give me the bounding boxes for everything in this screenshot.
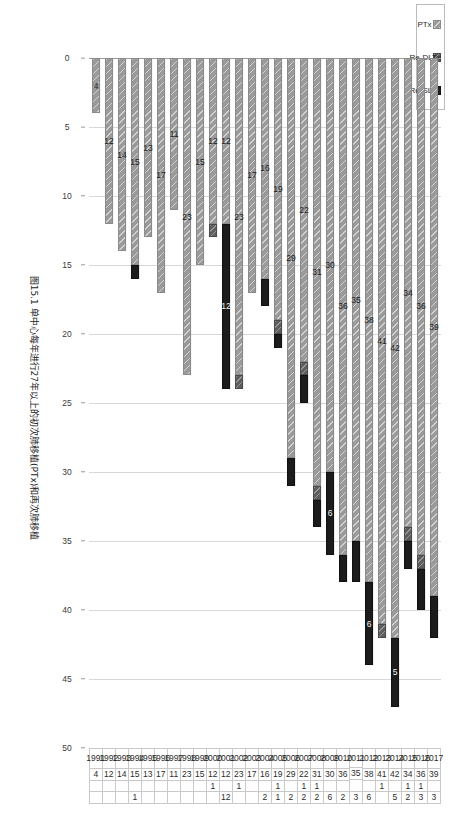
bar-value-label: 23 (234, 212, 243, 221)
table-cell-ptx: 15 (129, 768, 141, 780)
table-cell-text: 2 (315, 793, 320, 802)
table-cell-sltx: 2 (285, 791, 297, 804)
table-cell-text: 12 (104, 770, 113, 779)
bar-row: 425 (389, 58, 402, 748)
bar-row: 23 (233, 58, 246, 748)
table-row: 2012386 (363, 748, 376, 804)
bar-segment-ptx: 12 (222, 58, 230, 224)
figure-container: PTxRe-DLTxRe-SLTx 3936344254138635363063… (0, 0, 459, 816)
table-cell-text: 14 (117, 770, 126, 779)
bar-value-label: 17 (247, 171, 256, 180)
table-cell-ptx: 36 (337, 768, 349, 780)
table-cell-dltx: 1 (272, 780, 284, 792)
bar-stack: 11 (170, 58, 178, 210)
bar-value-label: 42 (391, 344, 400, 353)
table-cell-text: 1 (406, 782, 411, 791)
bar-value-label: 38 (365, 316, 374, 325)
table-cell-text: 17 (156, 770, 165, 779)
table-cell-text: 38 (364, 770, 373, 779)
bar-row: 14 (115, 58, 128, 748)
bar-row: 22 (298, 58, 311, 748)
table-cell-sltx: 12 (220, 791, 232, 804)
table-cell-dltx (285, 780, 297, 792)
bar-segment-dltx (378, 624, 386, 638)
table-cell-sltx (181, 791, 193, 804)
bar-value-label: 15 (195, 157, 204, 166)
table-cell-text: 2 (406, 793, 411, 802)
table-cell-sltx: 2 (337, 791, 349, 804)
table-cell-text: 15 (130, 770, 139, 779)
table-cell-text: 29 (286, 770, 295, 779)
bar-value-label: 13 (143, 143, 152, 152)
bar-row: 386 (363, 58, 376, 748)
table-cell-sltx (233, 791, 245, 804)
table-cell-text: 2 (302, 793, 307, 802)
bar-row: 36 (337, 58, 350, 748)
bar-stack: 13 (144, 58, 152, 237)
bar-row: 16 (259, 58, 272, 748)
table-cell-sltx: 1 (272, 791, 284, 804)
axis-tick-0: 0 (60, 56, 85, 61)
table-cell-ptx: 41 (376, 768, 388, 780)
table-cell-dltx: 1 (207, 780, 219, 792)
data-table: 2017393201636132015341220144252013411201… (89, 748, 441, 804)
figure-caption-text: 图15.1 单中心每年进行27年以上的初次肺移植(PTx)和再次肺移植 (29, 276, 42, 541)
table-cell-text: 2 (263, 793, 268, 802)
table-cell-dltx (194, 780, 206, 792)
bar-segment-dltx (274, 320, 282, 334)
bar-value-label: 39 (430, 323, 439, 332)
table-cell-text: 31 (312, 770, 321, 779)
bar-row: 11 (167, 58, 180, 748)
table-cell-ptx: 13 (142, 768, 154, 780)
bar-segment-ptx: 30 (326, 58, 334, 472)
bar-segment-sltx: 5 (391, 638, 399, 707)
table-cell-ptx: 14 (116, 768, 128, 780)
tick-label: 15 (62, 260, 71, 270)
table-cell-ptx: 38 (363, 768, 375, 780)
table-cell-text: 42 (390, 770, 399, 779)
table-cell-ptx: 12 (220, 768, 232, 780)
table-cell-text: 12 (221, 770, 230, 779)
tick-label: 50 (62, 743, 71, 753)
table-cell-sltx: 3 (350, 791, 362, 804)
bar-stack: 34 (404, 58, 412, 569)
table-cell-text: 2 (289, 793, 294, 802)
bar-stack: 1212 (222, 58, 230, 389)
bar-value-label: 22 (299, 206, 308, 215)
table-cell-text: 1 (276, 793, 281, 802)
table-cell-text: 1 (419, 782, 424, 791)
table-cell-text: 1 (211, 782, 216, 791)
bar-stack: 29 (287, 58, 295, 486)
bar-stack: 23 (183, 58, 191, 375)
table-cell-text: 15 (195, 770, 204, 779)
table-cell-sltx (116, 791, 128, 804)
table-cell-ptx: 4 (90, 768, 102, 780)
table-cell-ptx: 29 (285, 768, 297, 780)
bar-segment-ptx: 38 (365, 58, 373, 582)
tick-mark (81, 541, 85, 542)
table-cell-dltx (116, 780, 128, 792)
table-cell-ptx: 23 (233, 768, 245, 780)
table-cell-text: 41 (377, 770, 386, 779)
bar-row: 23 (180, 58, 193, 748)
bar-segment-ptx: 41 (378, 58, 386, 624)
table-cell-sltx: 3 (415, 791, 427, 804)
bar-value-label: 31 (312, 268, 321, 277)
bar-row: 35 (350, 58, 363, 748)
bar-stack: 425 (391, 58, 399, 707)
legend-label: PTx (410, 20, 440, 29)
bar-value-label: 41 (378, 337, 387, 346)
table-cell-sltx (376, 791, 388, 804)
bar-row: 1212 (219, 58, 232, 748)
bar-row: 36 (415, 58, 428, 748)
bar-stack: 4 (92, 58, 100, 113)
table-cell-sltx (207, 791, 219, 804)
bar-segment-ptx: 34 (404, 58, 412, 527)
tick-mark (81, 126, 85, 127)
bar-segment-ptx: 17 (157, 58, 165, 293)
bar-value-label: 5 (393, 668, 398, 677)
tick-label: 30 (62, 467, 71, 477)
table-cell-text: 13 (143, 770, 152, 779)
bar-segment-sltx: 12 (222, 224, 230, 390)
table-cell-ptx: 34 (402, 768, 414, 780)
